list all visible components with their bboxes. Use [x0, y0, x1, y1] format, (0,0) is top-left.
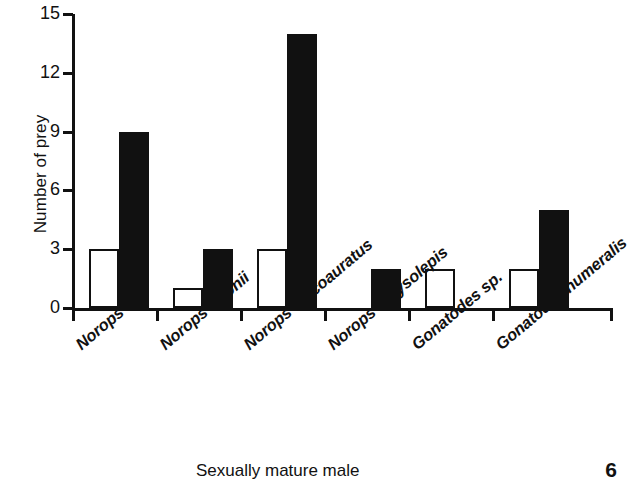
x-axis-category-label: Gonatodes humeralis: [492, 233, 631, 354]
x-axis-title: Sexually mature male: [196, 461, 359, 481]
x-axis-category-label: Norops ortonii: [156, 268, 253, 354]
figure-number: 6: [605, 458, 617, 482]
x-axis-category-labels: Norops sp.Norops ortoniiNorops fuscoaura…: [0, 0, 631, 490]
figure-panel: Number of prey 03691215 Norops sp.Norops…: [0, 0, 631, 490]
x-axis-category-label: Norops sp.: [72, 285, 149, 354]
